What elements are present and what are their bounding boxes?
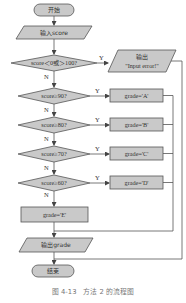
grade-d-box: grade='D' xyxy=(110,176,163,189)
decision-score-70: score≥70? xyxy=(18,146,90,162)
grade-c-box: grade='C' xyxy=(110,147,163,160)
decision2-label: score≥90? xyxy=(41,92,67,99)
decision1-label: score＜0或＞100? xyxy=(31,59,77,66)
no-label: N xyxy=(44,73,49,80)
start-terminal: 开始 xyxy=(34,4,74,16)
yes-label: Y xyxy=(95,174,100,181)
start-label: 开始 xyxy=(48,6,60,14)
decision4-label: score≥70? xyxy=(41,150,67,157)
output-label: 输出grade xyxy=(41,241,71,249)
yes-label: Y xyxy=(95,87,100,94)
grade-e-label: grade='E' xyxy=(43,211,66,218)
flowchart: 开始 输入score score＜0或＞100? Y 输出 "Input err… xyxy=(0,0,186,303)
no-label: N xyxy=(44,135,49,142)
decision-score-60: score≥60? xyxy=(18,175,90,191)
decision3-label: score≥80? xyxy=(41,121,67,128)
input-score-parallelogram: 输入score xyxy=(16,26,92,39)
grade-a-label: grade='A' xyxy=(125,92,149,99)
error-output-parallelogram: 输出 "Input error!" xyxy=(108,50,176,72)
output-grade-parallelogram: 输出grade xyxy=(19,238,93,252)
decision5-label: score≥60? xyxy=(41,179,67,186)
no-label: N xyxy=(44,106,49,113)
input-label: 输入score xyxy=(40,29,68,37)
no-label: N xyxy=(44,191,49,198)
grade-a-box: grade='A' xyxy=(110,89,163,102)
error-output-label1: 输出 xyxy=(136,53,148,61)
figure-caption: 图 4-13 方法 2 的流程图 xyxy=(52,287,134,296)
grade-b-box: grade='B' xyxy=(110,118,163,131)
end-label: 结束 xyxy=(47,267,59,275)
yes-label: Y xyxy=(95,116,100,123)
decision-score-90: score≥90? xyxy=(18,88,90,104)
no-label: N xyxy=(44,164,49,171)
yes-label: Y xyxy=(95,145,100,152)
yes-label: Y xyxy=(99,54,104,61)
grade-e-box: grade='E' xyxy=(21,207,88,222)
grade-b-label: grade='B' xyxy=(125,121,149,128)
decision-range-check: score＜0或＞100? xyxy=(11,55,97,71)
end-terminal: 结束 xyxy=(32,265,74,277)
grade-c-label: grade='C' xyxy=(125,150,149,157)
grade-d-label: grade='D' xyxy=(125,179,149,186)
decision-score-80: score≥80? xyxy=(18,117,90,133)
error-output-label2: "Input error!" xyxy=(125,62,159,69)
